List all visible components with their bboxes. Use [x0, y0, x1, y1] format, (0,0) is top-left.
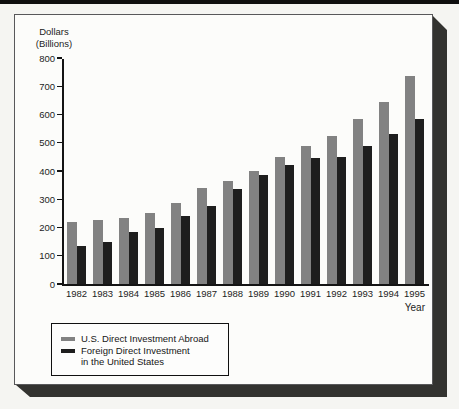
bar-1991-fdius — [311, 158, 321, 284]
legend-label-fdius-line1: Foreign Direct Investment — [81, 345, 190, 356]
bar-1986-fdius — [181, 216, 191, 284]
bar-1987-usdia — [197, 188, 207, 284]
y-axis-tick — [57, 170, 62, 171]
bar-1988-fdius — [233, 189, 243, 284]
y-axis-tick — [57, 199, 62, 200]
y-axis-tick — [57, 142, 62, 143]
legend-label-fdius: Foreign Direct Investment in the United … — [81, 345, 190, 367]
bar-1984-usdia — [119, 218, 129, 284]
bar-1994-usdia — [379, 102, 389, 284]
bar-1983-fdius — [103, 242, 113, 284]
y-tick-label: 200 — [17, 222, 55, 233]
bar-1988-usdia — [223, 181, 233, 284]
y-tick-label: 800 — [17, 53, 55, 64]
bar-1992-fdius — [337, 157, 347, 284]
top-rule-divider — [0, 0, 459, 4]
legend-label-usdia: U.S. Direct Investment Abroad — [81, 333, 209, 344]
bar-1989-usdia — [249, 171, 259, 284]
x-axis-title: Year — [375, 302, 425, 313]
bar-1993-usdia — [353, 119, 363, 284]
legend-item-fdius: Foreign Direct Investment in the United … — [61, 345, 222, 367]
bar-1982-fdius — [77, 246, 87, 284]
bar-1983-usdia — [93, 220, 103, 284]
y-axis-tick — [57, 86, 62, 87]
legend-swatch-fdius — [61, 349, 75, 354]
x-axis-line — [62, 284, 429, 286]
bar-1985-fdius — [155, 228, 165, 285]
legend-swatch-usdia — [61, 337, 75, 342]
y-tick-label: 600 — [17, 109, 55, 120]
bar-1992-usdia — [327, 136, 337, 284]
bar-1993-fdius — [363, 146, 373, 284]
bar-1990-fdius — [285, 165, 295, 284]
chart-panel: Dollars (Billions) Year 8007006005004003… — [14, 14, 433, 385]
y-axis-tick — [57, 227, 62, 228]
bar-1982-usdia — [67, 222, 77, 284]
legend-label-fdius-line2: in the United States — [81, 356, 190, 367]
y-tick-label: 300 — [17, 194, 55, 205]
y-axis-title: Dollars (Billions) — [31, 26, 77, 49]
legend-box: U.S. Direct Investment Abroad Foreign Di… — [51, 323, 229, 376]
bar-1991-usdia — [301, 146, 311, 284]
y-tick-label: 400 — [17, 166, 55, 177]
x-tick-label: 1995 — [400, 288, 430, 299]
y-axis-title-line1: Dollars — [31, 26, 77, 38]
bar-1984-fdius — [129, 232, 139, 284]
bar-1987-fdius — [207, 206, 217, 284]
y-axis-tick — [57, 283, 62, 284]
bar-1995-usdia — [405, 76, 415, 284]
y-tick-label: 500 — [17, 137, 55, 148]
legend-item-usdia: U.S. Direct Investment Abroad — [61, 333, 222, 344]
bar-1990-usdia — [275, 157, 285, 284]
y-axis-tick — [57, 114, 62, 115]
y-axis-title-line2: (Billions) — [31, 38, 77, 50]
y-tick-label: 700 — [17, 81, 55, 92]
bar-1995-fdius — [415, 119, 425, 284]
bar-1986-usdia — [171, 203, 181, 284]
bar-1994-fdius — [389, 134, 399, 284]
y-tick-label: 0 — [17, 279, 55, 290]
y-axis-line — [62, 59, 64, 285]
y-tick-label: 100 — [17, 250, 55, 261]
bar-1989-fdius — [259, 175, 269, 284]
y-axis-tick — [57, 57, 62, 58]
bar-1985-usdia — [145, 213, 155, 284]
y-axis-tick — [57, 255, 62, 256]
